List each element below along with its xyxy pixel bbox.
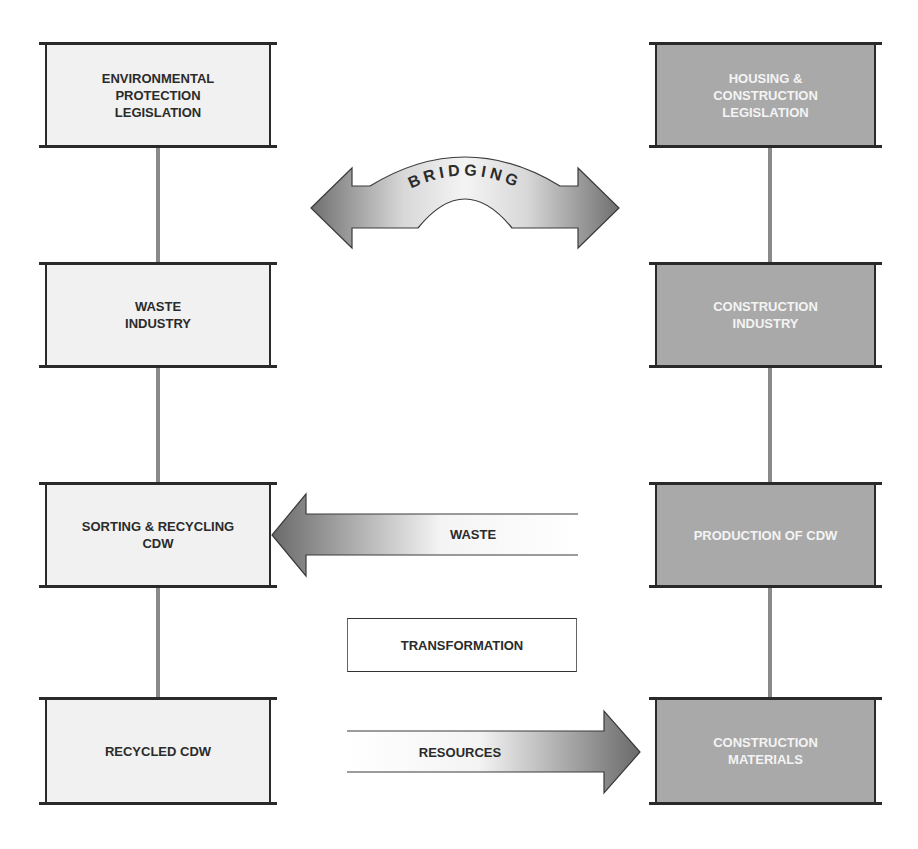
transformation-box: TRANSFORMATION bbox=[347, 618, 577, 672]
arrows-layer: BRIDGING bbox=[0, 0, 918, 849]
transformation-label: TRANSFORMATION bbox=[401, 638, 524, 653]
resources-label: RESOURCES bbox=[385, 745, 535, 760]
waste-label: WASTE bbox=[398, 527, 548, 542]
